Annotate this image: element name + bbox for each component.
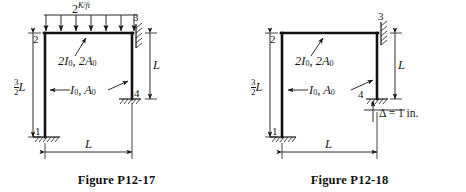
dimension-span bbox=[282, 112, 377, 159]
load-magnitude-label: 2K/ft bbox=[72, 2, 90, 15]
dimension-label-left-height: 32L bbox=[251, 78, 262, 97]
node-label-2: 2 bbox=[270, 34, 276, 45]
settlement-label: Δ = 1 in. bbox=[379, 108, 418, 120]
node-label-1: 1 bbox=[272, 126, 278, 137]
figure-page: 2K/ft 2 3 4 1 2I0, 2A0 I0, A0 32L L L Fi… bbox=[0, 0, 466, 192]
node-label-4: 4 bbox=[134, 88, 140, 99]
dimension-left-height bbox=[265, 33, 278, 137]
node-label-3: 3 bbox=[133, 12, 139, 23]
dimension-left-height bbox=[28, 33, 41, 137]
support-node-4 bbox=[119, 99, 141, 104]
figure-caption-p12-17: Figure P12-17 bbox=[0, 173, 233, 188]
support-node-3 bbox=[381, 21, 387, 45]
dimension-label-left-height: 32L bbox=[14, 78, 25, 97]
load-arrow-group bbox=[46, 15, 134, 31]
support-node-1 bbox=[270, 137, 296, 142]
dimension-label-right-height: L bbox=[398, 59, 405, 72]
node-label-2: 2 bbox=[33, 34, 39, 45]
figure-p12-17: 2K/ft 2 3 4 1 2I0, 2A0 I0, A0 32L L L Fi… bbox=[0, 0, 233, 192]
column-section-label: I0, A0 bbox=[70, 84, 96, 97]
frame-diagram-p12-17 bbox=[0, 0, 233, 192]
figure-p12-18: 2 3 4 1 2I0, 2A0 I0, A0 32L L L Δ = 1 in… bbox=[233, 0, 466, 192]
dimension-label-right-height: L bbox=[153, 59, 160, 72]
frame-diagram-p12-18 bbox=[233, 0, 466, 192]
beam-section-label: 2I0, 2A0 bbox=[295, 55, 334, 68]
node-label-3: 3 bbox=[378, 11, 384, 22]
column-section-label: I0, A0 bbox=[309, 84, 335, 97]
beam-section-label: 2I0, 2A0 bbox=[58, 55, 97, 68]
node-label-1: 1 bbox=[35, 126, 41, 137]
leader-column-right bbox=[108, 81, 128, 90]
dimension-label-span: L bbox=[85, 138, 92, 151]
support-node-1 bbox=[33, 137, 60, 142]
node-label-4: 4 bbox=[358, 89, 364, 100]
support-node-3 bbox=[136, 23, 142, 48]
dimension-label-span: L bbox=[325, 138, 332, 151]
figure-caption-p12-18: Figure P12-18 bbox=[233, 173, 466, 188]
